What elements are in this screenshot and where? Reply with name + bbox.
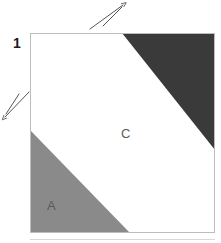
arrow-southwest-icon bbox=[5, 92, 29, 117]
figure-root: 1 C A bbox=[0, 0, 221, 243]
arrow-northeast-icon bbox=[90, 5, 123, 29]
geometry-diagram: 1 C A bbox=[0, 0, 221, 243]
dimension-label-1: 1 bbox=[13, 35, 21, 51]
region-label-c: C bbox=[121, 126, 131, 141]
region-label-a: A bbox=[47, 198, 56, 213]
